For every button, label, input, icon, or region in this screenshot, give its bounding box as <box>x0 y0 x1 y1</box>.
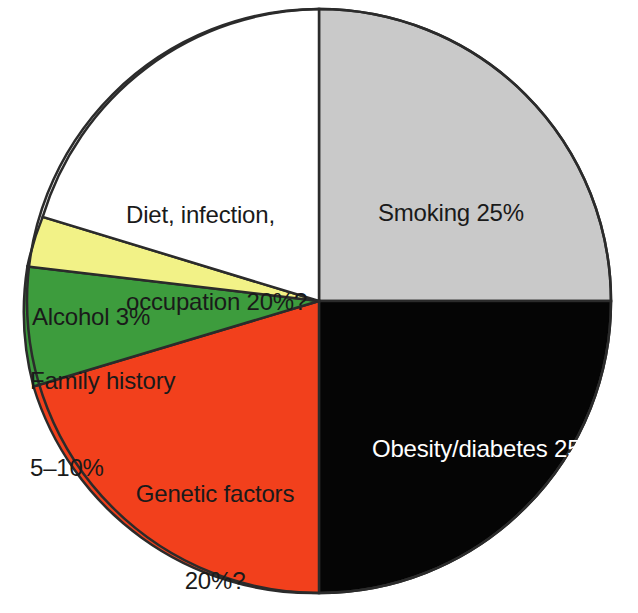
pie-chart: Smoking 25% Obesity/diabetes 25% Diet, i… <box>0 0 638 613</box>
slice-label-smoking-line1: Smoking 25% <box>378 198 524 227</box>
slice-label-family-line1: Family history <box>30 366 175 395</box>
slice-label-diet-line1: Diet, infection, <box>126 200 307 229</box>
slice-label-smoking: Smoking 25% <box>378 139 524 285</box>
slice-label-genetic-factors: Genetic factors 20%? <box>115 420 315 613</box>
slice-label-obesity-diabetes: Obesity/diabetes 25% <box>372 375 601 521</box>
slice-label-genetic-line2: 20%? <box>115 566 315 595</box>
slice-label-genetic-line1: Genetic factors <box>115 479 315 508</box>
slice-label-obesity-line1: Obesity/diabetes 25% <box>372 434 601 463</box>
